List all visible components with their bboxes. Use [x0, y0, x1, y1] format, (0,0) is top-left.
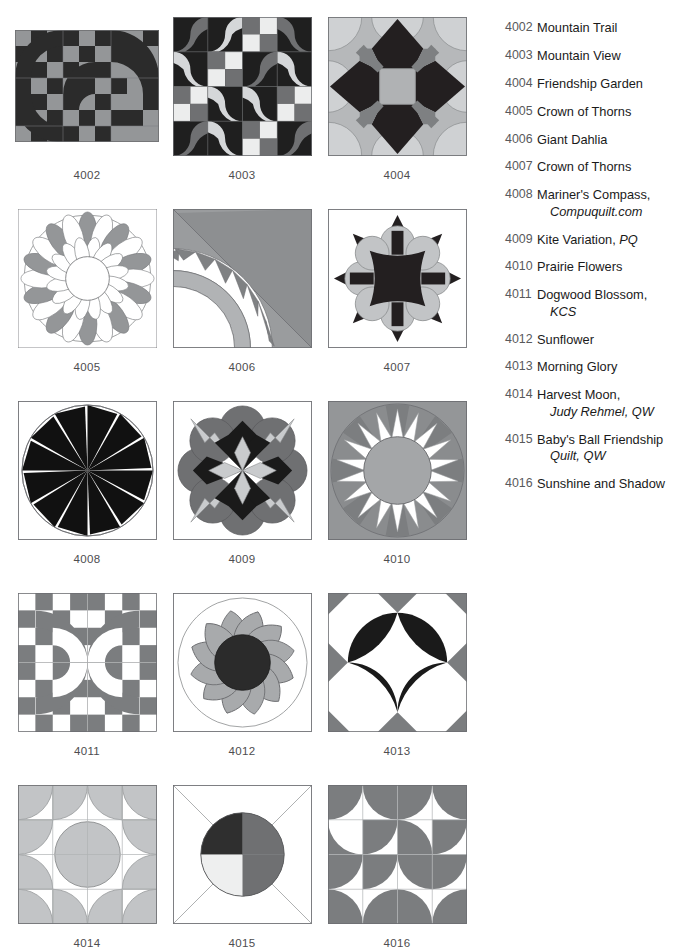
- legend-item[interactable]: 4004 Friendship Garden: [505, 76, 685, 92]
- quilt-block-grid: 4002: [12, 14, 482, 951]
- block-artwork: [170, 206, 314, 350]
- legend-label: Harvest Moon, Judy Rehmel, QW: [537, 387, 654, 420]
- legend-number: 4015: [505, 432, 537, 448]
- block-artwork: [325, 14, 469, 158]
- legend-label: Crown of Thorns: [537, 104, 631, 120]
- block-artwork: [170, 398, 314, 542]
- legend-label: Crown of Thorns: [537, 159, 631, 175]
- block-caption: 4003: [229, 169, 256, 181]
- block-artwork: [15, 590, 159, 734]
- legend-number: 4003: [505, 48, 537, 64]
- legend-item[interactable]: 4009 Kite Variation, PQ: [505, 232, 685, 248]
- block-caption: 4012: [229, 745, 256, 757]
- block-row: 4002: [12, 14, 482, 198]
- quilt-block-4016[interactable]: 4016: [322, 782, 472, 951]
- legend-item[interactable]: 4014 Harvest Moon, Judy Rehmel, QW: [505, 387, 685, 420]
- legend-item[interactable]: 4006 Giant Dahlia: [505, 132, 685, 148]
- legend-label-attribution: Quilt, QW: [537, 448, 663, 464]
- legend-number: 4008: [505, 187, 537, 203]
- legend-number: 4010: [505, 259, 537, 275]
- legend-number: 4002: [505, 20, 537, 36]
- quilt-block-4003[interactable]: 4003: [167, 14, 317, 198]
- legend-label: Dogwood Blossom, KCS: [537, 287, 647, 320]
- block-caption: 4004: [384, 169, 411, 181]
- legend-number: 4006: [505, 132, 537, 148]
- quilt-block-4005[interactable]: 4005: [12, 206, 162, 390]
- block-caption: 4007: [384, 361, 411, 373]
- legend-label-attribution: Compuquilt.com: [537, 204, 650, 220]
- quilt-block-4015[interactable]: 4015: [167, 782, 317, 951]
- quilt-block-4007[interactable]: 4007: [322, 206, 472, 390]
- block-name-legend: 4002 Mountain Trail 4003 Mountain View 4…: [505, 20, 685, 504]
- legend-item[interactable]: 4002 Mountain Trail: [505, 20, 685, 36]
- block-artwork: [325, 782, 469, 926]
- block-caption: 4008: [74, 553, 101, 565]
- quilt-block-4012[interactable]: 4012: [167, 590, 317, 774]
- quilt-block-4014[interactable]: 4014: [12, 782, 162, 951]
- block-caption: 4006: [229, 361, 256, 373]
- block-caption: 4013: [384, 745, 411, 757]
- legend-number: 4004: [505, 76, 537, 92]
- quilt-block-4009[interactable]: 4009: [167, 398, 317, 582]
- legend-number: 4014: [505, 387, 537, 403]
- legend-label-main: Kite Variation,: [537, 232, 619, 247]
- block-row: 4005: [12, 206, 482, 390]
- legend-label: Mariner's Compass, Compuquilt.com: [537, 187, 650, 220]
- legend-item[interactable]: 4007 Crown of Thorns: [505, 159, 685, 175]
- legend-label-main: Mariner's Compass,: [537, 187, 650, 202]
- block-row: 4014: [12, 782, 482, 951]
- legend-item[interactable]: 4008 Mariner's Compass, Compuquilt.com: [505, 187, 685, 220]
- block-artwork: [15, 398, 159, 542]
- legend-label: Morning Glory: [537, 359, 617, 375]
- quilt-block-4013[interactable]: 4013: [322, 590, 472, 774]
- legend-item[interactable]: 4011 Dogwood Blossom, KCS: [505, 287, 685, 320]
- legend-label-main: Dogwood Blossom,: [537, 287, 647, 302]
- quilt-block-4008[interactable]: 4008: [12, 398, 162, 582]
- legend-label: Friendship Garden: [537, 76, 643, 92]
- block-caption: 4005: [74, 361, 101, 373]
- quilt-block-4011[interactable]: 4011: [12, 590, 162, 774]
- legend-number: 4007: [505, 159, 537, 175]
- legend-number: 4009: [505, 232, 537, 248]
- quilt-block-4004[interactable]: 4004: [322, 14, 472, 198]
- block-caption: 4002: [74, 169, 101, 181]
- legend-item[interactable]: 4016 Sunshine and Shadow: [505, 476, 685, 492]
- block-artwork: [325, 398, 469, 542]
- legend-label: Prairie Flowers: [537, 259, 622, 275]
- legend-number: 4016: [505, 476, 537, 492]
- legend-label: Giant Dahlia: [537, 132, 607, 148]
- block-artwork: [170, 782, 314, 926]
- block-artwork: [170, 590, 314, 734]
- legend-item[interactable]: 4010 Prairie Flowers: [505, 259, 685, 275]
- quilt-block-4006[interactable]: 4006: [167, 206, 317, 390]
- block-caption: 4014: [74, 937, 101, 949]
- legend-item[interactable]: 4015 Baby's Ball Friendship Quilt, QW: [505, 432, 685, 465]
- legend-item[interactable]: 4003 Mountain View: [505, 48, 685, 64]
- legend-item[interactable]: 4012 Sunflower: [505, 332, 685, 348]
- legend-label-main: Harvest Moon,: [537, 387, 620, 402]
- legend-number: 4005: [505, 104, 537, 120]
- block-caption: 4015: [229, 937, 256, 949]
- block-row: 4008: [12, 398, 482, 582]
- quilt-block-4002[interactable]: 4002: [12, 14, 162, 198]
- legend-item[interactable]: 4005 Crown of Thorns: [505, 104, 685, 120]
- legend-label-attribution: KCS: [537, 304, 647, 320]
- block-row: 4011: [12, 590, 482, 774]
- quilt-block-4010[interactable]: 4010: [322, 398, 472, 582]
- block-artwork: [15, 782, 159, 926]
- legend-label: Mountain View: [537, 48, 621, 64]
- legend-label: Mountain Trail: [537, 20, 617, 36]
- legend-number: 4012: [505, 332, 537, 348]
- legend-label: Kite Variation, PQ: [537, 232, 638, 248]
- block-artwork: [325, 590, 469, 734]
- block-artwork: [15, 14, 159, 158]
- block-artwork: [15, 206, 159, 350]
- legend-item[interactable]: 4013 Morning Glory: [505, 359, 685, 375]
- block-caption: 4010: [384, 553, 411, 565]
- legend-label-main: Baby's Ball Friendship: [537, 432, 663, 447]
- legend-label: Sunflower: [537, 332, 594, 348]
- legend-label-attribution: PQ: [619, 232, 638, 247]
- block-artwork: [325, 206, 469, 350]
- legend-number: 4013: [505, 359, 537, 375]
